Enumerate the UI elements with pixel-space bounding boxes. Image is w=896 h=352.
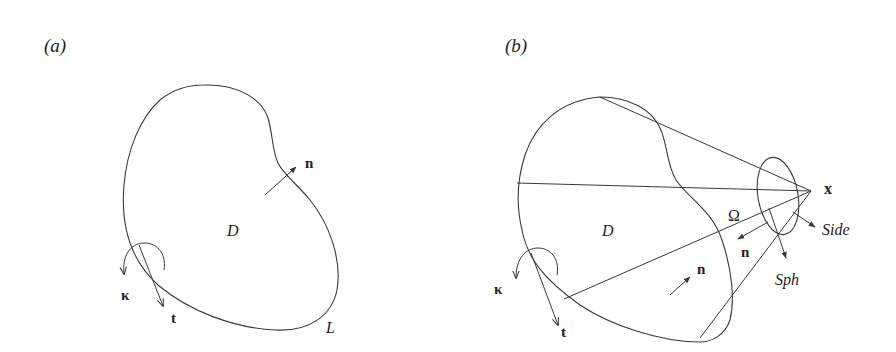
inner-normal-label: n bbox=[741, 244, 750, 260]
normal-label: n bbox=[305, 155, 314, 171]
sphere-ellipse bbox=[752, 154, 805, 238]
tangent-arrow bbox=[139, 245, 163, 306]
panel-b: (b) x Ω Side Sph n n D κ t bbox=[494, 35, 850, 342]
panel-b-label: (b) bbox=[505, 35, 527, 57]
surface-normal-arrow bbox=[670, 277, 690, 295]
figure-canvas: (a) n D L κ t (b) x Ω Side bbox=[0, 0, 896, 352]
inner-normal-arrow bbox=[738, 222, 768, 239]
tangent-arrow-b bbox=[531, 253, 558, 325]
solid-angle-label: Ω bbox=[728, 207, 740, 224]
cone-line-middle bbox=[517, 183, 811, 191]
tangent-label: t bbox=[171, 310, 176, 326]
normal-arrow bbox=[265, 167, 296, 195]
curvature-arc-icon-b bbox=[516, 248, 558, 278]
surface-normal-label: n bbox=[697, 261, 706, 277]
cone-line-lower bbox=[564, 191, 811, 299]
cone-line-top bbox=[600, 97, 811, 191]
side-label: Side bbox=[822, 221, 850, 238]
tangent-label-b: t bbox=[561, 324, 566, 340]
curvature-label: κ bbox=[121, 287, 130, 303]
panel-a-label: (a) bbox=[44, 35, 66, 57]
side-normal-arrow bbox=[793, 212, 815, 227]
region-label-b: D bbox=[601, 222, 614, 239]
curvature-label-b: κ bbox=[494, 281, 503, 297]
boundary-curve-l bbox=[123, 85, 338, 330]
panel-a: (a) n D L κ t bbox=[44, 35, 338, 336]
sphere-label: Sph bbox=[775, 271, 799, 289]
sphere-normal-arrow bbox=[769, 208, 786, 258]
region-label: D bbox=[226, 222, 239, 239]
apex-label: x bbox=[824, 180, 832, 197]
curve-label: L bbox=[325, 319, 335, 336]
